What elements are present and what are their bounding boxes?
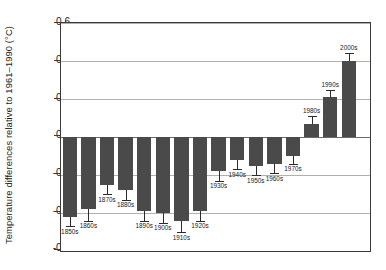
bar-label-1990s: 1990s	[317, 81, 343, 88]
bar-label-1880s: 1880s	[113, 201, 139, 208]
bar-1880s	[118, 137, 133, 190]
bar-1870s	[100, 137, 115, 185]
y-axis-title: Temperature differences relative to 1961…	[0, 0, 16, 270]
bar-label-1970s: 1970s	[280, 165, 306, 172]
bar-1960s	[267, 137, 282, 164]
bar-label-1920s: 1920s	[187, 222, 213, 229]
bar-label-1860s: 1860s	[75, 222, 101, 229]
plot-area: 1850s1860s1870s1880s1890s1900s1910s1920s…	[60, 22, 371, 252]
error-bar-1890s	[144, 211, 145, 221]
error-bar-1850s	[70, 217, 71, 227]
gridline-5	[61, 213, 370, 214]
error-bar-1920s	[200, 211, 201, 221]
bar-label-1910s: 1910s	[168, 234, 194, 241]
error-bar-1860s	[88, 209, 89, 220]
gridline-1	[61, 61, 370, 62]
bar-1990s	[323, 97, 338, 137]
bar-label-1960s: 1960s	[261, 175, 287, 182]
gridline-6	[61, 251, 370, 252]
bar-1920s	[193, 137, 208, 211]
bar-1950s	[249, 137, 264, 166]
error-bar-1980s	[312, 116, 313, 124]
gridline-0	[61, 23, 370, 24]
bar-2000s	[342, 61, 357, 137]
bar-1910s	[174, 137, 189, 221]
error-bar-1950s	[256, 166, 257, 176]
bar-1970s	[286, 137, 301, 156]
error-bar-2000s	[349, 53, 350, 61]
error-cap-2000s	[345, 53, 354, 54]
error-bar-1910s	[181, 221, 182, 232]
error-cap-1990s	[326, 90, 335, 91]
error-bar-1940s	[237, 160, 238, 170]
bar-1900s	[156, 137, 171, 213]
error-cap-1980s	[308, 116, 317, 117]
error-bar-1970s	[293, 156, 294, 164]
error-bar-1880s	[126, 190, 127, 200]
bar-1980s	[304, 124, 319, 137]
chart-figure: Temperature differences relative to 1961…	[0, 0, 386, 270]
error-bar-1900s	[163, 213, 164, 223]
bar-label-1980s: 1980s	[299, 107, 325, 114]
bar-label-1930s: 1930s	[206, 182, 232, 189]
error-bar-1870s	[107, 185, 108, 195]
error-bar-1960s	[274, 164, 275, 174]
bar-1890s	[137, 137, 152, 211]
error-bar-1930s	[219, 171, 220, 181]
bar-label-1900s: 1900s	[150, 224, 176, 231]
bar-1850s	[63, 137, 78, 217]
bar-1930s	[211, 137, 226, 171]
bar-1940s	[230, 137, 245, 160]
bar-label-2000s: 2000s	[336, 44, 362, 51]
